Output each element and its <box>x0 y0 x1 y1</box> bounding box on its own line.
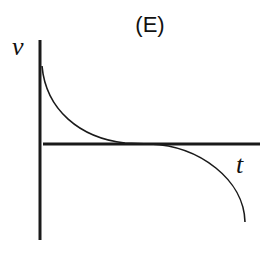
velocity-time-graph <box>0 0 277 254</box>
